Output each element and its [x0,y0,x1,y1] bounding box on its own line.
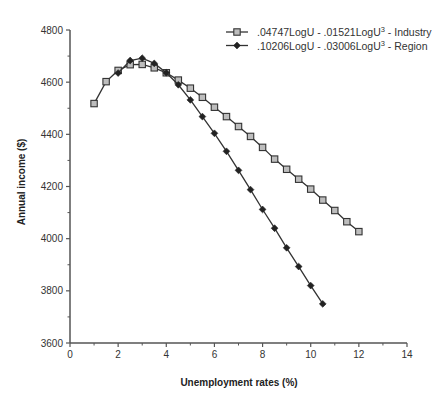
x-axis-title: Unemployment rates (%) [180,377,297,388]
square-marker [187,85,193,91]
square-marker [223,113,229,119]
square-marker [332,207,338,213]
diamond-marker [283,244,290,251]
legend-label: .04747LogU - .01521LogU3 - Industry [257,25,432,38]
square-marker [234,29,240,35]
diamond-marker [234,42,241,49]
diamond-marker [271,225,278,232]
square-marker [259,144,265,150]
y-axis-title: Annual income ($) [16,139,27,226]
x-tick-label: 0 [67,349,73,360]
square-marker [308,186,314,192]
y-tick-label: 4600 [41,77,64,88]
series-layer [91,55,362,308]
square-marker [199,94,205,100]
line-chart: 360038004000420044004600480002468101214 … [0,0,432,403]
square-marker [271,156,277,162]
x-tick-label: 4 [164,349,170,360]
x-tick-label: 14 [401,349,413,360]
square-marker [211,104,217,110]
x-tick-label: 8 [260,349,266,360]
diamond-marker [139,55,146,62]
x-tick-label: 10 [305,349,317,360]
square-marker [295,176,301,182]
square-marker [139,61,145,67]
series-line [118,58,323,304]
series-region [115,55,326,308]
x-tick-label: 12 [353,349,365,360]
diamond-marker [223,148,230,155]
y-tick-label: 4200 [41,181,64,192]
diamond-marker [295,263,302,270]
square-marker [344,219,350,225]
square-marker [103,78,109,84]
square-marker [91,100,97,106]
diamond-marker [259,206,266,213]
y-tick-label: 4800 [41,25,64,36]
square-marker [235,123,241,129]
y-tick-label: 4000 [41,233,64,244]
legend: .04747LogU - .01521LogU3 - Industry.1020… [226,25,432,52]
diamond-marker [235,167,242,174]
axes: 360038004000420044004600480002468101214 [41,25,413,361]
diamond-marker [247,186,254,193]
y-tick-label: 3800 [41,285,64,296]
square-marker [356,228,362,234]
y-tick-label: 3600 [41,338,64,349]
x-tick-label: 6 [212,349,218,360]
square-marker [247,133,253,139]
legend-item: .10206LogU - .03006LogU3 - Region [226,39,428,52]
square-marker [283,166,289,172]
diamond-marker [319,300,326,307]
legend-item: .04747LogU - .01521LogU3 - Industry [226,25,432,38]
x-tick-label: 2 [115,349,121,360]
y-tick-label: 4400 [41,129,64,140]
legend-label: .10206LogU - .03006LogU3 - Region [257,39,428,52]
diamond-marker [307,282,314,289]
square-marker [320,197,326,203]
